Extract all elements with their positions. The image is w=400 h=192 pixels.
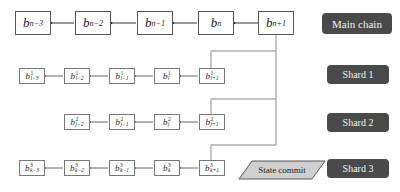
shard1-block-l-1: b1l−1 xyxy=(109,68,135,84)
block-subscript: l+1 xyxy=(210,76,218,81)
main-block-n+1: bn+1 xyxy=(258,11,294,35)
block-subscript: k−1 xyxy=(120,168,129,173)
block-subscript: n−1 xyxy=(152,19,165,28)
main-block-n: bn xyxy=(198,11,234,35)
main-block-n-3: bn−3 xyxy=(15,11,51,35)
block-base: b xyxy=(115,163,120,173)
shard3-block-k+1: b3k+1 xyxy=(199,160,225,176)
main-chain-label: Main chain xyxy=(322,13,392,34)
shard2-label: Shard 2 xyxy=(327,113,389,132)
block-subscript: j−1 xyxy=(120,122,128,127)
block-subscript: k xyxy=(168,168,171,173)
shard1-block-l: b1l xyxy=(154,68,180,84)
block-subscript: l−3 xyxy=(30,76,38,81)
state-commit-label: State commit xyxy=(238,160,326,180)
block-subscript: n xyxy=(217,19,221,28)
block-subscript: l−1 xyxy=(120,76,128,81)
block-subscript: j−2 xyxy=(75,122,83,127)
shard2-block-j+1: b2j+1 xyxy=(199,114,225,130)
shard3-block-k-3: b3k−3 xyxy=(19,160,45,176)
block-subscript: j+1 xyxy=(210,122,218,127)
shard2-block-j: b2j xyxy=(154,114,180,130)
shard1-block-l-2: b1l−2 xyxy=(64,68,90,84)
block-subscript: k+1 xyxy=(210,168,219,173)
block-base: b xyxy=(205,71,210,81)
block-base: b xyxy=(25,163,30,173)
block-subscript: k−2 xyxy=(75,168,84,173)
main-block-n-1: bn−1 xyxy=(137,11,173,35)
block-base: b xyxy=(25,71,30,81)
shard3-block-k: b3k xyxy=(154,160,180,176)
shard2-block-j-1: b2j−1 xyxy=(109,114,135,130)
block-subscript: n−2 xyxy=(90,19,103,28)
shard1-label: Shard 1 xyxy=(327,65,389,84)
shard3-block-k-1: b3k−1 xyxy=(109,160,135,176)
block-base: b xyxy=(163,71,168,81)
shard3-label: Shard 3 xyxy=(327,159,389,178)
block-base: b xyxy=(205,163,210,173)
block-subscript: n+1 xyxy=(273,19,286,28)
block-subscript: l xyxy=(168,76,171,81)
block-base: b xyxy=(115,71,120,81)
block-subscript: l−2 xyxy=(75,76,83,81)
block-base: b xyxy=(163,163,168,173)
block-subscript: j xyxy=(168,122,171,127)
shard1-block-l+1: b1l+1 xyxy=(199,68,225,84)
shard1-block-l-3: b1l−3 xyxy=(19,68,45,84)
shard2-block-j-2: b2j−2 xyxy=(64,114,90,130)
block-base: b xyxy=(163,117,168,127)
block-base: b xyxy=(70,71,75,81)
main-block-n-2: bn−2 xyxy=(75,11,111,35)
shard3-block-k-2: b3k−2 xyxy=(64,160,90,176)
block-base: b xyxy=(70,163,75,173)
block-subscript: k−3 xyxy=(30,168,39,173)
block-subscript: n−3 xyxy=(30,19,43,28)
